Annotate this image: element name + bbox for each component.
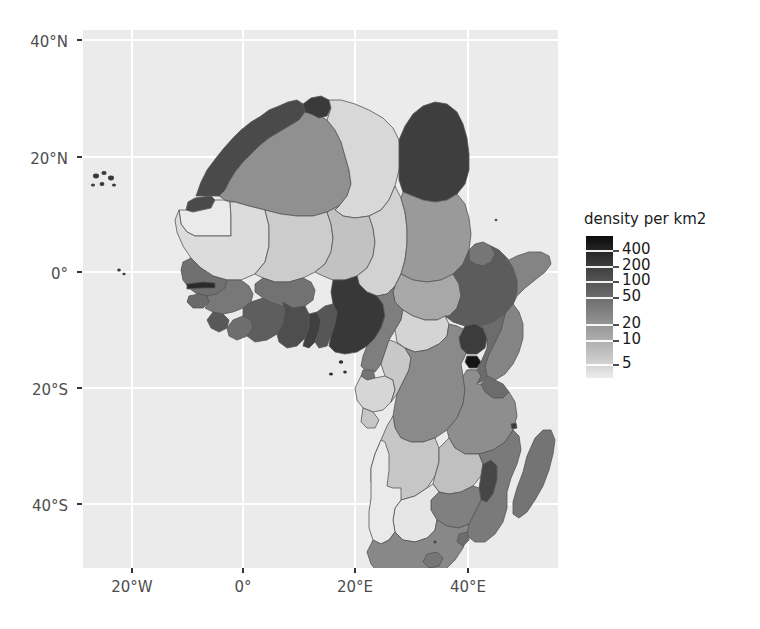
legend-tick-400: [586, 250, 613, 252]
x-tick-mark-40e: [467, 568, 469, 573]
legend-tick-out-5: [613, 364, 619, 366]
country-shapes: [91, 96, 558, 568]
legend-tick-100: [586, 281, 613, 283]
region-egypt: [399, 102, 469, 202]
legend-tick-10: [586, 340, 613, 342]
legend-tick-200: [586, 266, 613, 268]
legend-colorbar: [586, 236, 613, 378]
legend-tick-out-20: [613, 324, 619, 326]
region-sierra-leone: [207, 312, 229, 332]
legend-label-50: 50: [622, 289, 641, 304]
legend-tick-out-100: [613, 281, 619, 283]
legend-tick-out-10: [613, 340, 619, 342]
legend-tick-5: [586, 364, 613, 366]
legend-label-5: 5: [622, 356, 632, 371]
y-tick-mark-20s: [77, 387, 82, 389]
legend-tick-20: [586, 324, 613, 326]
x-tick-mark-20e: [354, 568, 356, 573]
y-tick-mark-40n: [77, 39, 82, 41]
region-gulf-of-guinea-islands: [329, 360, 347, 375]
africa-choropleth-svg: .ctry { stroke:#555555; stroke-width:0.8…: [83, 30, 558, 568]
legend-label-100: 100: [622, 273, 651, 288]
plot-root: .ctry { stroke:#555555; stroke-width:0.8…: [0, 0, 760, 629]
region-guinea-bissau: [187, 294, 209, 308]
y-tick-mark-40s: [77, 503, 82, 505]
x-tick-label-20w: 20°W: [97, 578, 167, 596]
legend-tick-out-400: [613, 250, 619, 252]
legend-title: density per km2: [584, 210, 754, 228]
y-tick-label-40s: 40°S: [8, 497, 68, 515]
y-tick-label-20n: 20°N: [8, 150, 68, 168]
y-tick-mark-0: [77, 271, 82, 273]
x-tick-label-40e: 40°E: [433, 578, 503, 596]
region-comoros: [511, 423, 517, 429]
legend-label-20: 20: [622, 316, 641, 331]
y-tick-label-40n: 40°N: [8, 33, 68, 51]
legend-tick-out-200: [613, 266, 619, 268]
y-tick-label-0: 0°: [8, 265, 68, 283]
legend-tick-out-50: [613, 297, 619, 299]
region-canary-islands: [91, 171, 116, 187]
x-tick-mark-0: [242, 568, 244, 573]
legend-label-400: 400: [622, 242, 651, 257]
x-tick-label-20e: 20°E: [320, 578, 390, 596]
legend-tick-50: [586, 297, 613, 299]
y-tick-label-20s: 20°S: [8, 381, 68, 399]
map-panel: .ctry { stroke:#555555; stroke-width:0.8…: [83, 30, 558, 568]
region-gabon: [355, 376, 395, 412]
legend-label-10: 10: [622, 332, 641, 347]
x-tick-label-0: 0°: [208, 578, 278, 596]
y-tick-mark-20n: [77, 156, 82, 158]
x-tick-mark-20w: [131, 568, 133, 573]
legend: density per km2 400 200 100 50 20 10 5: [584, 210, 754, 381]
legend-body: 400 200 100 50 20 10 5: [584, 236, 754, 381]
